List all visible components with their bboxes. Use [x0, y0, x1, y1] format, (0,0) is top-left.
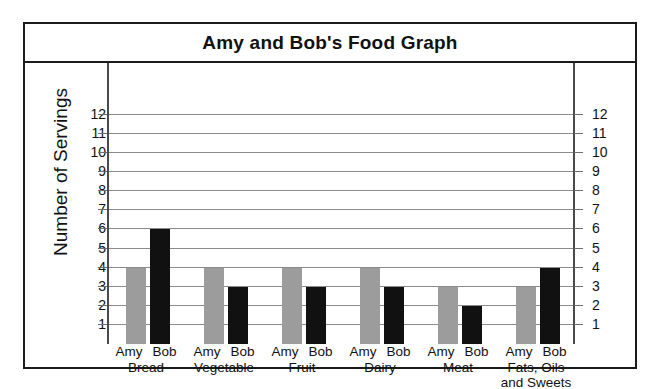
bar-amy-1	[204, 268, 224, 344]
bar-bob-2	[306, 287, 326, 344]
gridline	[109, 171, 573, 172]
tick-mark-right	[574, 114, 583, 115]
y-tick-label-right: 1	[592, 317, 618, 331]
y-tick-label-right: 10	[592, 145, 618, 159]
series-name-bob: Bob	[386, 344, 410, 360]
tick-mark-right	[574, 133, 583, 134]
y-tick-label-right: 5	[592, 241, 618, 255]
tick-mark-right	[574, 209, 583, 210]
gridline	[109, 267, 573, 268]
gridline	[109, 190, 573, 191]
tick-mark-right	[574, 286, 583, 287]
series-name-amy: Amy	[115, 344, 142, 360]
category-group: AmyBobMeat	[419, 344, 497, 375]
chart-body: Number of Servings 121110987654321 12111…	[25, 63, 635, 367]
bar-bob-0	[150, 229, 170, 344]
series-name-amy: Amy	[427, 344, 454, 360]
tick-mark-right	[574, 305, 583, 306]
series-name-amy: Amy	[349, 344, 376, 360]
gridline	[109, 133, 573, 134]
bar-bob-4	[462, 306, 482, 344]
bar-bob-3	[384, 287, 404, 344]
series-names: AmyBob	[419, 344, 497, 360]
bar-bob-5	[540, 268, 560, 344]
y-tick-label-right: 12	[592, 107, 618, 121]
x-axis-category-labels: AmyBobBreadAmyBobVegetableAmyBobFruitAmy…	[107, 344, 575, 389]
category-name: Fats, Oils and Sweets	[497, 360, 575, 389]
series-name-amy: Amy	[271, 344, 298, 360]
y-tick-label-right: 9	[592, 164, 618, 178]
tick-mark-left	[98, 267, 107, 268]
series-name-bob: Bob	[230, 344, 254, 360]
gridline	[109, 305, 573, 306]
tick-mark-left	[98, 171, 107, 172]
tick-mark-right	[574, 228, 583, 229]
category-name: Dairy	[341, 360, 419, 376]
series-name-bob: Bob	[308, 344, 332, 360]
category-group: AmyBobBread	[107, 344, 185, 375]
gridline	[109, 286, 573, 287]
category-group: AmyBobDairy	[341, 344, 419, 375]
category-group: AmyBobFruit	[263, 344, 341, 375]
tick-mark-right	[574, 267, 583, 268]
y-tick-label-right: 8	[592, 183, 618, 197]
category-group: AmyBobFats, Oils and Sweets	[497, 344, 575, 389]
y-tick-label-right: 7	[592, 202, 618, 216]
y-tick-label-right: 6	[592, 221, 618, 235]
series-name-amy: Amy	[193, 344, 220, 360]
series-name-bob: Bob	[464, 344, 488, 360]
gridline	[109, 152, 573, 153]
series-name-bob: Bob	[152, 344, 176, 360]
series-names: AmyBob	[107, 344, 185, 360]
y-axis-right-ticks: 121110987654321	[592, 63, 618, 367]
gridline	[109, 114, 573, 115]
bar-amy-4	[438, 287, 458, 344]
bar-amy-2	[282, 268, 302, 344]
series-names: AmyBob	[263, 344, 341, 360]
y-tick-label-right: 4	[592, 260, 618, 274]
page-title: Amy and Bob's Food Graph	[202, 32, 457, 54]
series-names: AmyBob	[341, 344, 419, 360]
category-name: Bread	[107, 360, 185, 376]
plot-area	[107, 63, 575, 344]
chart-title-band: Amy and Bob's Food Graph	[25, 24, 635, 63]
tick-mark-left	[98, 209, 107, 210]
category-name: Vegetable	[185, 360, 263, 376]
gridline	[109, 209, 573, 210]
tick-mark-right	[574, 171, 583, 172]
y-axis-left-ticks: 121110987654321	[80, 63, 106, 367]
tick-mark-left	[98, 305, 107, 306]
tick-mark-right	[574, 248, 583, 249]
tick-mark-left	[98, 190, 107, 191]
tick-mark-left	[98, 286, 107, 287]
bar-amy-5	[516, 287, 536, 344]
category-name: Fruit	[263, 360, 341, 376]
category-group: AmyBobVegetable	[185, 344, 263, 375]
tick-mark-left	[98, 228, 107, 229]
series-name-amy: Amy	[505, 344, 532, 360]
tick-mark-left	[98, 248, 107, 249]
tick-mark-left	[98, 152, 107, 153]
series-names: AmyBob	[497, 344, 575, 360]
tick-mark-right	[574, 324, 583, 325]
series-name-bob: Bob	[542, 344, 566, 360]
series-names: AmyBob	[185, 344, 263, 360]
tick-mark-right	[574, 190, 583, 191]
gridline	[109, 248, 573, 249]
tick-mark-right	[574, 152, 583, 153]
y-tick-label-right: 11	[592, 126, 618, 140]
bar-amy-3	[360, 268, 380, 344]
bar-bob-1	[228, 287, 248, 344]
y-axis-title: Number of Servings	[50, 72, 72, 272]
bar-amy-0	[126, 268, 146, 344]
tick-mark-left	[98, 133, 107, 134]
tick-mark-left	[98, 324, 107, 325]
y-tick-label-right: 2	[592, 298, 618, 312]
y-tick-label-right: 3	[592, 279, 618, 293]
gridline	[109, 324, 573, 325]
gridline	[109, 228, 573, 229]
tick-mark-left	[98, 114, 107, 115]
chart-figure: Amy and Bob's Food Graph Number of Servi…	[23, 22, 637, 369]
category-name: Meat	[419, 360, 497, 376]
